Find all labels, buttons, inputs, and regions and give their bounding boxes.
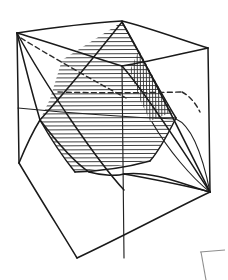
figure-canvas: Cube with inscribed octahedron hexagonal… bbox=[0, 0, 228, 280]
geometric-figure-svg bbox=[0, 0, 228, 280]
hidden-edge-horizontal bbox=[58, 92, 182, 93]
